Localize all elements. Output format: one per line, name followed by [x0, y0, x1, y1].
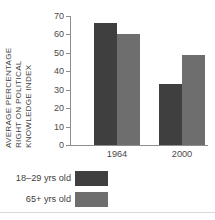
y-axis-title-line-3: KNOWLEDGE INDEX: [24, 65, 33, 148]
bar-1964-series-2: [117, 34, 140, 145]
y-axis-title-line-1: AVERAGE PERCENTAGE: [4, 48, 13, 148]
legend-swatch: [75, 171, 108, 186]
legend-swatch: [75, 192, 108, 207]
legend-item-2: 65+ yrs old: [0, 191, 215, 212]
bar-2000-series-2: [182, 55, 205, 145]
y-tick-mark: [66, 34, 70, 35]
y-tick-mark: [66, 127, 70, 128]
y-tick-label: 30: [54, 85, 64, 95]
bottom-divider: [0, 212, 215, 213]
x-axis-line: [70, 145, 208, 146]
y-tick-label: 0: [59, 140, 64, 150]
bar-1964-series-1: [94, 23, 117, 145]
y-tick-mark: [66, 53, 70, 54]
y-tick-label: 70: [54, 11, 64, 21]
y-tick-mark: [66, 145, 70, 146]
y-tick-mark: [66, 71, 70, 72]
legend-label: 65+ yrs old: [26, 194, 71, 204]
y-tick-mark: [66, 108, 70, 109]
y-tick-label: 50: [54, 48, 64, 58]
y-tick-label: 40: [54, 66, 64, 76]
legend-label: 18–29 yrs old: [16, 173, 71, 183]
x-axis-label-1964: 1964: [107, 149, 127, 159]
y-tick-mark: [66, 16, 70, 17]
x-axis-label-2000: 2000: [172, 149, 192, 159]
y-tick-label: 60: [54, 29, 64, 39]
chart-legend: 18–29 yrs old65+ yrs old: [0, 170, 215, 212]
y-tick-mark: [66, 90, 70, 91]
y-axis-title-line-2: RIGHT ON POLITICAL: [14, 60, 23, 148]
bar-2000-series-1: [159, 84, 182, 145]
plot-area: 706050403020100 19642000: [70, 16, 208, 145]
y-tick-label: 20: [54, 103, 64, 113]
legend-item-1: 18–29 yrs old: [0, 170, 215, 191]
y-axis-title: AVERAGE PERCENTAGE RIGHT ON POLITICAL KN…: [4, 8, 44, 148]
chart-figure: AVERAGE PERCENTAGE RIGHT ON POLITICAL KN…: [0, 0, 215, 220]
y-tick-label: 10: [54, 122, 64, 132]
y-axis-line: [70, 16, 71, 145]
